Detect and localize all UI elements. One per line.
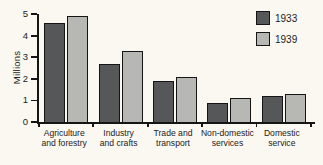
legend-label-1933: 1933 [275, 13, 297, 24]
y-tick-label-4: 4 [13, 31, 28, 41]
bar-1933-2 [99, 64, 120, 122]
legend-swatch-1939 [256, 32, 270, 46]
y-tick-label-2: 2 [13, 74, 28, 84]
bar-1939-4 [230, 98, 251, 122]
bar-1933-5 [262, 96, 283, 122]
y-tick-4 [31, 35, 37, 37]
bar-group-3 [148, 77, 202, 122]
category-label-1: Agricultureand forestry [37, 128, 91, 148]
y-tick-2 [31, 78, 37, 80]
bar-1939-2 [122, 51, 143, 122]
bar-chart-figure: Millions 012345 Agricultureand forestryI… [0, 0, 323, 165]
x-tick-4 [256, 122, 258, 127]
x-tick-1 [92, 122, 94, 127]
x-tick-0 [38, 122, 40, 127]
y-tick-0 [31, 121, 37, 123]
bar-1939-1 [67, 16, 88, 122]
y-tick-label-5: 5 [13, 9, 28, 19]
y-axis-title: Millions [11, 38, 22, 98]
y-tick-1 [31, 100, 37, 102]
bar-group-2 [93, 51, 147, 122]
y-tick-label-3: 3 [13, 52, 28, 62]
x-tick-3 [201, 122, 203, 127]
category-label-2: Industryand crafts [91, 128, 145, 148]
legend-label-1939: 1939 [275, 34, 297, 45]
category-label-5: Domesticservice [255, 128, 309, 148]
bar-group-5 [257, 94, 311, 122]
category-label-4: Non-domesticservices [200, 128, 254, 148]
x-tick-5 [310, 122, 312, 127]
legend: 19331939 [256, 11, 297, 46]
bar-1939-5 [285, 94, 306, 122]
y-tick-3 [31, 56, 37, 58]
x-axis-labels: Agricultureand forestryIndustryand craft… [37, 128, 309, 148]
x-tick-2 [147, 122, 149, 127]
legend-swatch-1933 [256, 11, 270, 25]
legend-item-1933: 1933 [256, 11, 297, 25]
bar-1933-3 [153, 81, 174, 122]
legend-item-1939: 1939 [256, 32, 297, 46]
y-tick-label-1: 1 [13, 95, 28, 105]
bar-1933-4 [207, 103, 228, 122]
y-tick-5 [31, 13, 37, 15]
category-label-3: Trade andtransport [146, 128, 200, 148]
bar-1933-1 [44, 23, 65, 122]
bar-1939-3 [176, 77, 197, 122]
y-tick-label-0: 0 [13, 117, 28, 127]
bar-group-1 [39, 16, 93, 122]
bar-group-4 [202, 98, 256, 122]
